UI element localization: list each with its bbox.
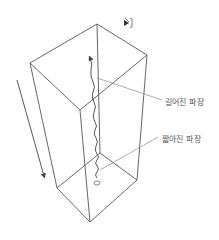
box-bottom-face bbox=[57, 153, 137, 222]
box-top-face bbox=[30, 24, 147, 110]
observer-icon bbox=[124, 18, 132, 28]
wavelength-box-diagram: 길어진 파장 짧아진 파장 bbox=[0, 0, 219, 240]
leader-line-long bbox=[97, 78, 162, 100]
label-shortened-wavelength: 짧아진 파장 bbox=[162, 133, 201, 144]
down-arrow-icon bbox=[17, 80, 44, 176]
leader-line-short bbox=[100, 137, 158, 170]
source-emitter-icon bbox=[94, 181, 100, 185]
label-lengthened-wavelength: 길어진 파장 bbox=[165, 96, 204, 107]
box-vertical-edges bbox=[30, 24, 147, 222]
diagram-drawing bbox=[0, 0, 219, 240]
